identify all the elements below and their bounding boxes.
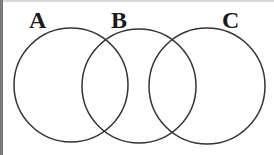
circle-a <box>14 28 128 142</box>
circle-b <box>82 29 196 143</box>
venn-diagram: A B C <box>0 0 274 155</box>
venn-diagram-frame: A B C <box>0 0 274 155</box>
label-b: B <box>111 7 127 33</box>
label-c: C <box>222 7 239 33</box>
label-a: A <box>29 7 47 33</box>
circle-c <box>149 28 265 144</box>
